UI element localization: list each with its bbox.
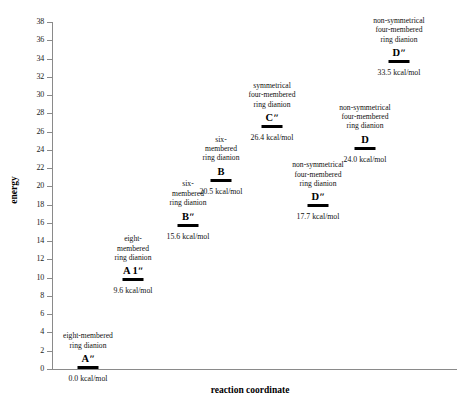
- y-axis-tick-label: 16: [22, 219, 44, 227]
- energy-level-bar[interactable]: [178, 224, 199, 227]
- y-axis-tick-label: 12: [22, 255, 44, 263]
- y-axis-tick-label: 20: [22, 182, 44, 190]
- energy-level-description-line: symmetrical: [253, 81, 291, 90]
- energy-level-description-line: six-: [182, 179, 193, 188]
- energy-level-description-line: non-symmetrical: [292, 160, 343, 169]
- energy-level-bar[interactable]: [123, 278, 144, 281]
- energy-level-description-line: ring dianion: [170, 198, 207, 207]
- energy-level-description-line: ring dianion: [254, 100, 291, 109]
- energy-level-bar[interactable]: [211, 179, 232, 182]
- y-axis-tick-label: 38: [22, 18, 44, 26]
- y-axis-tick: [47, 95, 52, 96]
- y-axis-tick: [47, 59, 52, 60]
- y-axis-tick: [47, 40, 52, 41]
- y-axis-tick-label: 32: [22, 73, 44, 81]
- energy-level-bar[interactable]: [78, 366, 99, 369]
- y-axis-tick: [47, 113, 52, 114]
- energy-level-description-line: four-membered: [294, 170, 341, 179]
- energy-level-value: 20.5 kcal/mol: [200, 187, 243, 196]
- energy-level-value: 9.6 kcal/mol: [114, 286, 153, 295]
- energy-level-value: 33.5 kcal/mol: [378, 68, 421, 77]
- y-axis-tick: [47, 168, 52, 169]
- y-axis-tick: [47, 278, 52, 279]
- energy-level-value: 24.0 kcal/mol: [344, 155, 387, 164]
- y-axis-tick: [47, 296, 52, 297]
- energy-level-bar[interactable]: [262, 125, 283, 128]
- y-axis-tick: [47, 314, 52, 315]
- energy-level-value: 26.4 kcal/mol: [251, 133, 294, 142]
- y-axis-title: energy: [9, 160, 19, 220]
- y-axis-line: [52, 22, 53, 370]
- y-axis-tick-label: 30: [22, 91, 44, 99]
- y-axis-tick-label: 28: [22, 109, 44, 117]
- y-axis-tick-label: 36: [22, 36, 44, 44]
- y-axis-tick: [47, 259, 52, 260]
- energy-diagram-figure: 02468101214161820222426283032343638 ener…: [0, 0, 465, 407]
- energy-level-description-line: non-symmetrical: [373, 16, 424, 25]
- y-axis-tick-label: 10: [22, 274, 44, 282]
- energy-level-bar[interactable]: [308, 204, 329, 207]
- energy-level-value: 15.6 kcal/mol: [167, 232, 210, 241]
- energy-level-value: 0.0 kcal/mol: [69, 374, 108, 383]
- energy-level-name: A 1ʺ: [123, 265, 143, 276]
- y-axis-tick: [47, 241, 52, 242]
- energy-level-description-line: ring dianion: [70, 341, 107, 350]
- y-axis-tick: [47, 223, 52, 224]
- energy-level-name: D: [361, 134, 369, 145]
- energy-level-name: Dʺ: [393, 47, 406, 58]
- energy-level-description-line: eight-: [124, 234, 142, 243]
- energy-level-description-line: ring dianion: [203, 153, 240, 162]
- y-axis-tick-label: 22: [22, 164, 44, 172]
- energy-level-description-line: six-: [215, 135, 226, 144]
- y-axis-tick-label: 4: [22, 328, 44, 336]
- y-axis-tick: [47, 332, 52, 333]
- energy-level-description-line: four-membered: [375, 25, 422, 34]
- energy-level-bar[interactable]: [355, 147, 376, 150]
- energy-level-description-line: membered: [117, 244, 149, 253]
- energy-level-description-line: ring dianion: [347, 121, 384, 130]
- y-axis-tick-label: 8: [22, 292, 44, 300]
- y-axis-tick: [47, 132, 52, 133]
- energy-level-name: B: [217, 166, 224, 177]
- energy-level-description-line: non-symmetrical: [339, 103, 390, 112]
- energy-level-bar[interactable]: [389, 60, 410, 63]
- y-axis-tick: [47, 351, 52, 352]
- y-axis-tick: [47, 186, 52, 187]
- energy-level-name: Bʺ: [182, 211, 194, 222]
- y-axis-tick-label: 18: [22, 201, 44, 209]
- energy-level-name: Cʺ: [266, 112, 279, 123]
- energy-level-name: Aʺ: [82, 353, 95, 364]
- energy-level-description-line: ring dianion: [300, 179, 337, 188]
- y-axis-tick: [47, 22, 52, 23]
- energy-level-description-line: ring dianion: [115, 253, 152, 262]
- y-axis-tick: [47, 205, 52, 206]
- energy-level-description-line: four-membered: [341, 112, 388, 121]
- x-axis-line: [52, 369, 457, 370]
- y-axis-tick-label: 0: [22, 365, 44, 373]
- x-axis-title: reaction coordinate: [160, 385, 340, 395]
- energy-level-description-line: membered: [205, 144, 237, 153]
- energy-level-description-line: four-membered: [248, 90, 295, 99]
- y-axis-tick-label: 14: [22, 237, 44, 245]
- energy-level-description-line: eight-membered: [63, 331, 113, 340]
- energy-level-description-line: ring dianion: [381, 35, 418, 44]
- y-axis-tick-label: 2: [22, 347, 44, 355]
- y-axis-tick-label: 26: [22, 128, 44, 136]
- y-axis-tick: [47, 150, 52, 151]
- y-axis-tick-label: 6: [22, 310, 44, 318]
- energy-level-name: Dʺ: [312, 191, 325, 202]
- y-axis-tick: [47, 369, 52, 370]
- y-axis-tick-label: 34: [22, 55, 44, 63]
- y-axis-tick-label: 24: [22, 146, 44, 154]
- energy-level-value: 17.7 kcal/mol: [297, 212, 340, 221]
- y-axis-tick: [47, 77, 52, 78]
